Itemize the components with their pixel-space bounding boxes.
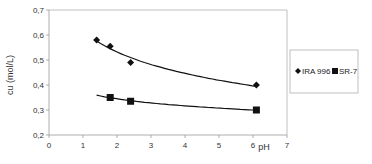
data-point-square: [107, 94, 114, 101]
y-tick-label: 0,4: [33, 81, 45, 90]
x-tick-label: 4: [183, 141, 188, 150]
x-tick-label: 7: [285, 141, 290, 150]
plot-area-frame: [49, 10, 287, 135]
data-point-diamond: [127, 59, 134, 66]
data-point-diamond: [107, 43, 114, 50]
y-tick-label: 0,6: [33, 31, 45, 40]
x-tick-label: 5: [217, 141, 222, 150]
y-tick-label: 0,7: [33, 6, 45, 15]
x-tick-label: 1: [81, 141, 86, 150]
x-tick-label: 3: [149, 141, 154, 150]
y-tick-label: 0,5: [33, 56, 45, 65]
chart: 0,20,30,40,50,60,7 01234567 cu (mol/L) p…: [0, 0, 372, 164]
y-axis: 0,20,30,40,50,60,7: [33, 6, 49, 140]
x-axis-title: pH: [258, 142, 270, 152]
data-point-square: [253, 107, 260, 114]
legend-label-ira996: IRA 996: [302, 67, 331, 76]
y-axis-title: cu (mol/L): [5, 55, 15, 95]
y-tick-label: 0,2: [33, 131, 45, 140]
legend-label-sr7: SR-7: [339, 67, 358, 76]
series-layer: [93, 37, 260, 114]
data-point-diamond: [253, 82, 260, 89]
x-tick-label: 0: [47, 141, 52, 150]
x-tick-label: 6: [251, 141, 256, 150]
y-tick-label: 0,3: [33, 106, 45, 115]
x-axis: 01234567: [47, 135, 290, 150]
data-point-square: [127, 98, 134, 105]
x-tick-label: 2: [115, 141, 120, 150]
trendline-1: [97, 95, 257, 110]
legend: IRA 996 SR-7: [290, 50, 358, 93]
trendline-0: [97, 41, 257, 86]
square-icon: [332, 68, 338, 74]
